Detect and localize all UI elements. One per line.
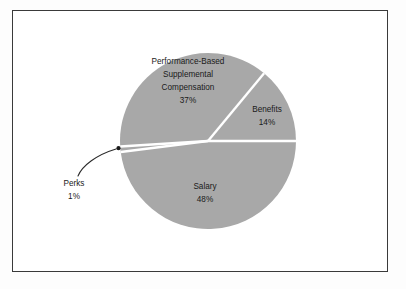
callout-perks: Perks 1% [64, 146, 121, 201]
pbsc-label-value: 37% [180, 96, 196, 105]
pie-chart: Performance-Based Supplemental Compensat… [0, 0, 406, 289]
benefits-label-name: Benefits [252, 105, 282, 114]
perks-leader-line [78, 149, 116, 176]
perks-label-name: Perks [64, 179, 85, 188]
pbsc-label-line2: Supplemental [163, 70, 213, 79]
page-background: Performance-Based Supplemental Compensat… [0, 0, 406, 289]
pbsc-label-line3: Compensation [162, 83, 215, 92]
benefits-label-value: 14% [259, 118, 275, 127]
pbsc-label-line1: Performance-Based [152, 57, 225, 66]
perks-leader-dot [116, 146, 120, 150]
salary-label-name: Salary [193, 182, 217, 191]
perks-label-value: 1% [68, 192, 80, 201]
salary-label-value: 48% [197, 195, 213, 204]
